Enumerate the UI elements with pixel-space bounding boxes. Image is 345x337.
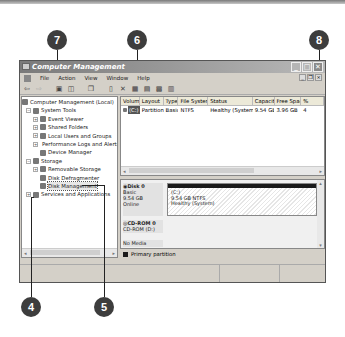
toolbar: ⇦ ⇨ ▣ ◫ ❐ ▯ ✕ ▦ ▤ ▩ ▥ bbox=[20, 83, 325, 95]
volume-list-horizontal-scrollbar[interactable]: ◂ ▸ bbox=[121, 166, 324, 175]
mdi-restore-button[interactable]: ❐ bbox=[307, 74, 314, 81]
expand-icon[interactable]: + bbox=[33, 133, 38, 138]
device-manager-icon bbox=[40, 150, 46, 156]
callout-6: 6 bbox=[127, 30, 147, 50]
callout-8: 8 bbox=[309, 30, 329, 50]
expand-icon[interactable]: + bbox=[33, 117, 38, 122]
tree-horizontal-scrollbar[interactable]: ◂ ▸ bbox=[22, 248, 117, 257]
computer-management-window: Computer Management _ □ ✕ File Action Vi… bbox=[19, 60, 326, 283]
tree-item-storage[interactable]: −Storage bbox=[22, 157, 117, 165]
callout-4-bracket bbox=[31, 197, 32, 277]
tree-item-shared-folders[interactable]: +Shared Folders bbox=[22, 123, 117, 131]
scroll-left-icon[interactable]: ◂ bbox=[24, 249, 27, 257]
properties-icon[interactable]: ❐ bbox=[87, 85, 95, 93]
tree-item-device-manager[interactable]: Device Manager bbox=[22, 148, 117, 156]
storage-icon bbox=[33, 158, 39, 164]
collapse-icon[interactable]: − bbox=[26, 159, 31, 164]
disk-0-label[interactable]: ◉Disk 0 Basic 9.54 GB Online bbox=[123, 183, 163, 216]
tree-item-disk-defragmenter[interactable]: Disk Defragmenter bbox=[22, 174, 117, 182]
column-layout[interactable]: Layout bbox=[140, 97, 164, 105]
tree-item-performance-logs[interactable]: +Performance Logs and Alerts bbox=[22, 140, 117, 148]
mdi-close-button[interactable]: × bbox=[315, 74, 322, 81]
column-free-space[interactable]: Free Space bbox=[275, 97, 302, 105]
graph-vertical-scrollbar[interactable]: ▴ ▾ bbox=[317, 180, 324, 248]
volume-row[interactable]: (C:) Partition Basic NTFS Healthy (Syste… bbox=[121, 106, 324, 114]
tree-item-event-viewer[interactable]: +Event Viewer bbox=[22, 115, 117, 123]
volume-list-header: Volume Layout Type File System Status Ca… bbox=[121, 97, 324, 106]
cdrom-0-state: No Media bbox=[123, 240, 163, 247]
details-pane: Volume Layout Type File System Status Ca… bbox=[120, 96, 325, 258]
tools-icon bbox=[33, 108, 39, 114]
status-bar bbox=[20, 264, 325, 282]
menu-view[interactable]: View bbox=[84, 73, 97, 83]
column-capacity[interactable]: Capacity bbox=[253, 97, 275, 105]
scroll-up-icon[interactable]: ▴ bbox=[317, 180, 324, 186]
expand-icon[interactable]: + bbox=[33, 167, 38, 172]
event-viewer-icon bbox=[40, 116, 46, 122]
tree-item-services-applications[interactable]: +Services and Applications bbox=[22, 190, 117, 198]
expand-icon[interactable]: + bbox=[33, 142, 38, 147]
up-icon[interactable]: ▣ bbox=[55, 85, 63, 93]
scroll-right-icon[interactable]: ▸ bbox=[319, 167, 322, 175]
callout-4-line bbox=[31, 275, 32, 297]
scroll-thumb[interactable] bbox=[129, 168, 254, 173]
menu-action[interactable]: Action bbox=[58, 73, 75, 83]
system-menu-icon[interactable] bbox=[24, 75, 31, 82]
legend: Primary partition bbox=[120, 250, 325, 258]
rescan-icon[interactable]: ▩ bbox=[155, 85, 163, 93]
menu-help[interactable]: Help bbox=[137, 73, 150, 83]
mdi-minimize-button[interactable]: _ bbox=[299, 74, 306, 81]
tree-root[interactable]: Computer Management (Local) bbox=[22, 98, 117, 106]
shared-folder-icon bbox=[40, 124, 46, 130]
new-icon[interactable]: ▯ bbox=[107, 85, 115, 93]
scroll-thumb[interactable] bbox=[30, 250, 100, 255]
partition-c[interactable]: (C:) 9.54 GB NTFS Healthy (System) bbox=[167, 183, 317, 216]
show-hide-tree-icon[interactable]: ◫ bbox=[67, 85, 75, 93]
close-button[interactable]: ✕ bbox=[313, 62, 323, 72]
callout-5-line bbox=[104, 185, 105, 297]
disk-icon[interactable]: ▦ bbox=[131, 85, 139, 93]
open-icon[interactable]: ▤ bbox=[143, 85, 151, 93]
tree-item-disk-management[interactable]: Disk Management bbox=[22, 182, 117, 190]
disk-management-icon bbox=[40, 183, 46, 189]
scroll-right-icon[interactable]: ▸ bbox=[112, 249, 115, 257]
scroll-left-icon[interactable]: ◂ bbox=[123, 167, 126, 175]
delete-icon[interactable]: ✕ bbox=[119, 85, 127, 93]
callout-5-connector bbox=[82, 185, 104, 186]
tree-item-local-users[interactable]: +Local Users and Groups bbox=[22, 132, 117, 140]
expand-icon[interactable]: + bbox=[33, 125, 38, 130]
callout-5: 5 bbox=[94, 297, 114, 317]
window-title: Computer Management bbox=[32, 63, 125, 71]
callout-4: 4 bbox=[21, 297, 41, 317]
back-icon[interactable]: ⇦ bbox=[23, 85, 31, 93]
removable-storage-icon bbox=[40, 166, 46, 172]
disk-graphical-view: ◉Disk 0 Basic 9.54 GB Online (C:) 9.54 G… bbox=[120, 179, 325, 249]
volume-icon bbox=[123, 108, 127, 112]
list-icon[interactable]: ▥ bbox=[167, 85, 175, 93]
callout-7: 7 bbox=[47, 30, 67, 50]
forward-icon[interactable]: ⇨ bbox=[35, 85, 43, 93]
title-bar[interactable]: Computer Management _ □ ✕ bbox=[20, 61, 325, 73]
collapse-icon[interactable]: − bbox=[26, 108, 31, 113]
column-status[interactable]: Status bbox=[208, 97, 253, 105]
column-type[interactable]: Type bbox=[164, 97, 179, 105]
menu-bar: File Action View Window Help bbox=[20, 73, 325, 83]
users-icon bbox=[40, 133, 46, 139]
computer-icon bbox=[22, 99, 28, 105]
maximize-button[interactable]: □ bbox=[302, 62, 312, 72]
tree-item-removable-storage[interactable]: +Removable Storage bbox=[22, 165, 117, 173]
volume-list: Volume Layout Type File System Status Ca… bbox=[120, 96, 325, 176]
page-top-border bbox=[0, 0, 345, 4]
column-file-system[interactable]: File System bbox=[178, 97, 208, 105]
menu-window[interactable]: Window bbox=[107, 73, 129, 83]
menu-file[interactable]: File bbox=[40, 73, 49, 83]
computer-management-icon bbox=[22, 63, 30, 70]
minimize-button[interactable]: _ bbox=[291, 62, 301, 72]
scroll-down-icon[interactable]: ▾ bbox=[317, 242, 324, 248]
column-percent-free[interactable]: % bbox=[301, 97, 324, 105]
cdrom-0-label[interactable]: ◎CD-ROM 0 CD-ROM (D:) bbox=[123, 220, 163, 233]
tree-item-system-tools[interactable]: −System Tools bbox=[22, 106, 117, 114]
primary-partition-swatch bbox=[123, 252, 128, 257]
defragmenter-icon bbox=[40, 175, 46, 181]
column-volume[interactable]: Volume bbox=[121, 97, 140, 105]
